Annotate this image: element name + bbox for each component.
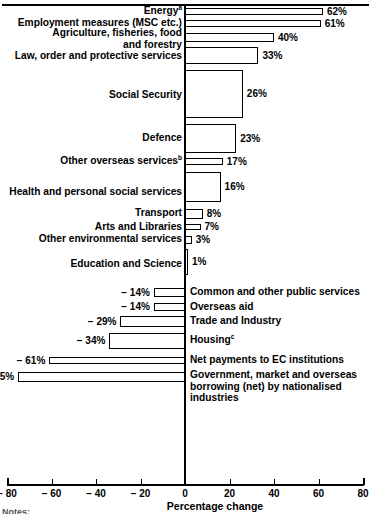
bar xyxy=(49,357,185,364)
category-label: Government, market and overseasborrowing… xyxy=(190,369,357,404)
category-label: Law, order and protective services xyxy=(15,50,182,62)
value-label: 17% xyxy=(227,156,247,167)
x-tick xyxy=(141,479,142,485)
footnote-marker: a xyxy=(178,4,182,11)
x-tick-label: − 20 xyxy=(121,488,161,499)
bar xyxy=(18,372,185,382)
bar xyxy=(185,224,201,230)
x-tick xyxy=(96,479,97,485)
value-label: 26% xyxy=(247,88,267,99)
category-label: Other overseas servicesb xyxy=(60,155,182,167)
x-tick-label: 20 xyxy=(210,488,250,499)
category-label: Social Security xyxy=(109,89,182,101)
x-tick-label: 60 xyxy=(299,488,339,499)
category-label: Other environmental services xyxy=(39,233,182,245)
value-label: 23% xyxy=(240,133,260,144)
bar xyxy=(154,288,185,297)
value-label: 7% xyxy=(205,221,219,232)
bar xyxy=(185,209,203,219)
bar xyxy=(109,333,185,349)
category-label: Energya xyxy=(144,5,182,17)
bar xyxy=(185,158,223,165)
bar xyxy=(185,47,258,64)
bar xyxy=(185,172,221,202)
x-axis-title: Percentage change xyxy=(140,500,290,512)
category-label: Health and personal social services xyxy=(9,186,182,198)
value-label: − 61% xyxy=(17,355,46,366)
category-label: Arts and Libraries xyxy=(95,221,182,233)
value-label: 16% xyxy=(225,181,245,192)
x-tick-label: − 80 xyxy=(0,488,27,499)
category-label: Defence xyxy=(142,132,182,144)
bar xyxy=(185,249,188,275)
footnote-marker: b xyxy=(178,154,182,161)
bar xyxy=(185,20,321,27)
x-tick-label: 0 xyxy=(165,488,205,499)
bar xyxy=(185,236,192,244)
x-tick xyxy=(230,479,231,485)
x-tick xyxy=(319,479,320,485)
value-label: 3% xyxy=(196,234,210,245)
bar xyxy=(185,70,243,118)
bar xyxy=(185,8,323,15)
x-tick xyxy=(185,479,186,485)
category-label: Housingc xyxy=(190,334,234,346)
bar xyxy=(185,124,236,153)
value-label: 62% xyxy=(327,6,347,17)
category-label: Net payments to EC institutions xyxy=(190,354,344,366)
value-label: 8% xyxy=(207,208,221,219)
value-label: 1% xyxy=(192,256,206,267)
category-label: Common and other public services xyxy=(190,286,360,298)
value-label: − 29% xyxy=(88,316,117,327)
bar xyxy=(154,303,185,311)
notes-label: Notes: xyxy=(2,507,30,514)
category-label: Education and Science xyxy=(70,258,182,270)
x-tick-label: 40 xyxy=(254,488,294,499)
value-label: 40% xyxy=(278,32,298,43)
value-label: 33% xyxy=(262,50,282,61)
category-label: Trade and Industry xyxy=(190,315,281,327)
bar xyxy=(120,316,185,327)
x-tick xyxy=(274,479,275,485)
bar xyxy=(185,33,274,42)
x-tick xyxy=(363,478,365,485)
footnote-marker: c xyxy=(231,333,235,340)
category-label: Overseas aid xyxy=(190,301,253,313)
value-label: − 34% xyxy=(77,335,106,346)
value-label: − 14% xyxy=(121,301,150,312)
value-label: − 75% xyxy=(0,371,14,382)
category-label: Transport xyxy=(135,207,182,219)
value-label: 61% xyxy=(325,18,345,29)
value-label: − 14% xyxy=(121,287,150,298)
x-tick-label: − 40 xyxy=(76,488,116,499)
x-tick-label: − 60 xyxy=(32,488,72,499)
x-tick xyxy=(52,479,53,485)
x-tick-label: 80 xyxy=(343,488,371,499)
bar-chart: Energya62%Employment measures (MSC etc.)… xyxy=(0,0,371,514)
category-label: Agriculture, fisheries, foodand forestry xyxy=(52,27,182,50)
x-tick xyxy=(7,478,9,485)
